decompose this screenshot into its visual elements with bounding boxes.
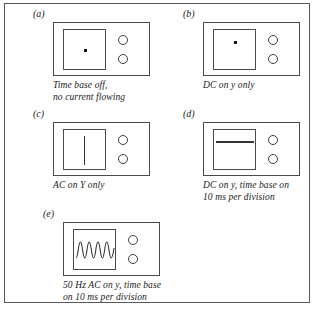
trace-dot-b (234, 41, 237, 44)
trace-dot-a (84, 49, 87, 52)
knob-top-b[interactable] (268, 35, 278, 45)
trace-horizontal-line-d (216, 141, 254, 143)
panel-label-b: (b) (183, 8, 300, 19)
knob-bottom-a[interactable] (118, 54, 128, 64)
knob-bottom-e[interactable] (128, 254, 138, 264)
panel-a: (a) Time base off, no current flowing (31, 8, 150, 103)
panel-label-a: (a) (33, 8, 150, 19)
knob-top-e[interactable] (128, 235, 138, 245)
panel-caption-a: Time base off, no current flowing (53, 80, 150, 103)
panel-label-d: (d) (183, 108, 300, 119)
panel-e: (e) 50 Hz AC on y, time base on 10 ms pe… (41, 208, 161, 303)
oscilloscope-screen-c (63, 129, 106, 170)
oscilloscope-screen-d (213, 129, 256, 170)
panel-caption-c: AC on Y only (53, 180, 150, 192)
panel-caption-e: 50 Hz AC on y, time base on 10 ms per di… (63, 280, 161, 303)
oscilloscope-screen-e (73, 229, 116, 270)
oscilloscope-screen-a (63, 29, 106, 70)
oscilloscope-body-c (53, 122, 150, 176)
knob-bottom-c[interactable] (118, 154, 128, 164)
panel-b: (b) DC on y only (181, 8, 300, 92)
panel-c: (c) AC on Y only (31, 108, 150, 192)
panel-label-e: (e) (43, 208, 161, 219)
panel-d: (d) DC on y, time base on 10 ms per divi… (181, 108, 300, 203)
oscilloscope-body-d (203, 122, 300, 176)
knob-top-d[interactable] (268, 135, 278, 145)
oscilloscope-body-b (203, 22, 300, 76)
figure-frame: (a) Time base off, no current flowing (b… (4, 3, 310, 303)
trace-vertical-line-c (84, 136, 85, 165)
oscilloscope-screen-b (213, 29, 256, 70)
knob-bottom-d[interactable] (268, 154, 278, 164)
oscilloscope-body-e (63, 222, 160, 276)
oscilloscope-body-a (53, 22, 150, 76)
trace-sine-wave-e (74, 230, 116, 270)
panel-caption-d: DC on y, time base on 10 ms per division (203, 180, 300, 203)
panel-label-c: (c) (33, 108, 150, 119)
knob-top-c[interactable] (118, 135, 128, 145)
knob-top-a[interactable] (118, 35, 128, 45)
panel-caption-b: DC on y only (203, 80, 300, 92)
knob-bottom-b[interactable] (268, 54, 278, 64)
